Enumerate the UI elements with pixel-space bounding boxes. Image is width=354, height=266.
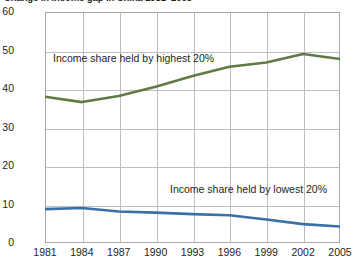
chart-container: Change in income gap in China 1981–2005 … [0, 0, 354, 266]
y-tick-label: 20 [0, 160, 14, 171]
y-tick-label: 50 [0, 45, 14, 56]
x-tick-label: 1984 [62, 247, 102, 258]
x-tick-label: 1996 [209, 247, 249, 258]
y-tick-label: 0 [0, 237, 14, 248]
x-tick-label: 1987 [99, 247, 139, 258]
x-tick-label: 1990 [136, 247, 176, 258]
x-tick-label: 1981 [25, 247, 65, 258]
y-tick-label: 10 [0, 199, 14, 210]
y-tick-label: 30 [0, 122, 14, 133]
x-tick-label: 1993 [173, 247, 213, 258]
y-tick-label: 40 [0, 83, 14, 94]
y-tick-label: 60 [0, 6, 14, 17]
x-tick-label: 2005 [320, 247, 354, 258]
x-tick-label: 2002 [283, 247, 323, 258]
chart-title: Change in income gap in China 1981–2005 [4, 0, 192, 3]
series-label-highest-20: Income share held by highest 20% [53, 52, 214, 64]
x-tick-label: 1999 [246, 247, 286, 258]
chart-series-lines [45, 12, 340, 243]
series-label-lowest-20: Income share held by lowest 20% [170, 183, 327, 195]
series-line [45, 208, 340, 226]
